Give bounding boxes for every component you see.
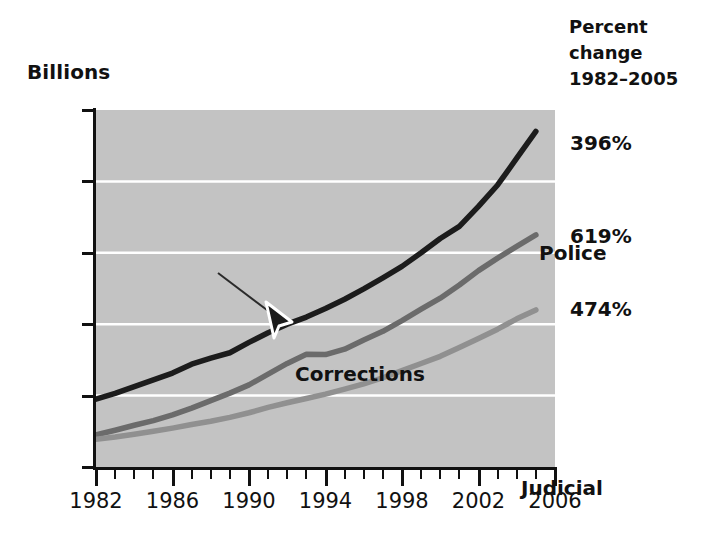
x-tick-minor — [439, 470, 441, 479]
x-tick-major — [478, 470, 481, 486]
x-tick-label: 2006 — [515, 489, 595, 513]
x-tick-minor — [152, 470, 154, 479]
x-tick-label: 1986 — [133, 489, 213, 513]
corrections-leader-line — [218, 273, 271, 313]
series-label-corrections: Corrections — [295, 362, 425, 386]
criminal-justice-expenditure-chart: Billions Percent change 1982–2005 396%61… — [0, 0, 712, 539]
percent-change-police: 396% — [570, 131, 690, 155]
x-tick-minor — [458, 470, 460, 479]
x-tick-label: 1994 — [286, 489, 366, 513]
x-tick-minor — [344, 470, 346, 479]
x-tick-label: 1990 — [209, 489, 289, 513]
x-tick-minor — [420, 470, 422, 479]
x-tick-minor — [382, 470, 384, 479]
x-tick-major — [95, 470, 98, 486]
x-tick-minor — [210, 470, 212, 479]
x-tick-minor — [535, 470, 537, 479]
plot-area: Police Corrections Judicial — [96, 110, 555, 467]
x-tick-minor — [305, 470, 307, 479]
x-tick-minor — [229, 470, 231, 479]
percent-change-header-line-3: 1982–2005 — [569, 66, 709, 92]
percent-change-header: Percent change 1982–2005 — [569, 14, 709, 92]
series-line-corrections — [96, 235, 536, 435]
x-tick-minor — [363, 470, 365, 479]
x-tick-major — [172, 470, 175, 486]
x-tick-major — [248, 470, 251, 486]
x-tick-label: 1982 — [56, 489, 136, 513]
x-tick-label: 1998 — [362, 489, 442, 513]
x-tick-major — [325, 470, 328, 486]
x-tick-major — [554, 470, 557, 486]
percent-change-header-line-1: Percent — [569, 14, 709, 40]
x-tick-minor — [497, 470, 499, 479]
percent-change-header-line-2: change — [569, 40, 709, 66]
plot-canvas — [96, 110, 555, 467]
y-axis: $0$20$40$60$80$100 — [0, 0, 96, 539]
series-line-police — [96, 131, 536, 399]
x-tick-minor — [114, 470, 116, 479]
x-tick-label: 2002 — [439, 489, 519, 513]
x-tick-minor — [191, 470, 193, 479]
x-tick-minor — [516, 470, 518, 479]
x-tick-major — [401, 470, 404, 486]
series-label-police: Police — [539, 241, 607, 265]
x-tick-minor — [267, 470, 269, 479]
y-axis-line — [93, 108, 96, 470]
x-tick-minor — [133, 470, 135, 479]
x-tick-minor — [286, 470, 288, 479]
percent-change-judicial: 474% — [570, 297, 690, 321]
